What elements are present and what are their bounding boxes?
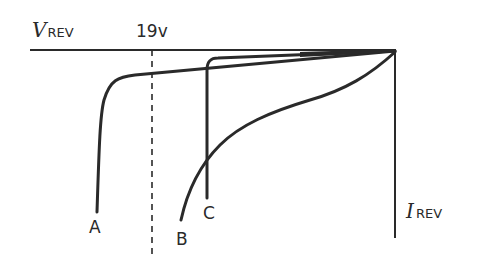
curve-a bbox=[97, 51, 395, 212]
v-rev-label: VREV bbox=[32, 18, 74, 42]
curve-a-label: A bbox=[89, 217, 101, 237]
curve-c-label: C bbox=[203, 203, 215, 223]
i-rev-label: IREV bbox=[405, 199, 442, 223]
curve-b-label: B bbox=[176, 229, 188, 249]
reference-label-19v: 19v bbox=[136, 21, 168, 41]
curve-b bbox=[181, 52, 395, 220]
diagram-canvas: VREV 19v IREV A B C bbox=[0, 0, 477, 258]
